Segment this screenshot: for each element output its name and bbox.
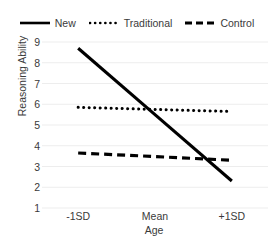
legend-item-traditional: Traditional — [89, 18, 173, 29]
y-tick-4: 4 — [34, 141, 40, 152]
y-axis-tick-labels: 9 8 7 6 5 4 3 2 1 — [24, 42, 40, 208]
y-tick-7: 7 — [34, 78, 40, 89]
plot-svg — [42, 42, 268, 208]
chart-legend: New Traditional Control — [0, 12, 274, 34]
legend-item-control: Control — [185, 18, 254, 29]
series-line-control — [78, 153, 232, 160]
dotted-line-swatch — [89, 18, 119, 28]
x-tick-plus-1sd: +1SD — [219, 211, 246, 222]
dashed-line-swatch — [185, 18, 215, 28]
legend-label-traditional: Traditional — [124, 18, 173, 29]
reasoning-ability-line-chart: New Traditional Control Reasoning Abilit… — [0, 0, 274, 243]
x-axis-title: Age — [42, 224, 266, 236]
legend-label-new: New — [55, 18, 76, 29]
x-axis-tick-labels: -1SD Mean +1SD — [42, 211, 268, 225]
y-tick-3: 3 — [34, 161, 40, 172]
legend-item-new: New — [20, 18, 76, 29]
x-tick-minus-1sd: -1SD — [66, 211, 90, 222]
y-tick-5: 5 — [34, 120, 40, 131]
y-tick-1: 1 — [34, 203, 40, 214]
x-tick-mean: Mean — [142, 211, 168, 222]
legend-label-control: Control — [220, 18, 254, 29]
y-tick-9: 9 — [34, 37, 40, 48]
series-line-new — [78, 48, 232, 181]
y-tick-8: 8 — [34, 58, 40, 69]
y-tick-2: 2 — [34, 182, 40, 193]
series-line-traditional — [78, 107, 232, 111]
plot-area — [42, 42, 268, 208]
y-tick-6: 6 — [34, 99, 40, 110]
gridlines — [42, 42, 268, 208]
